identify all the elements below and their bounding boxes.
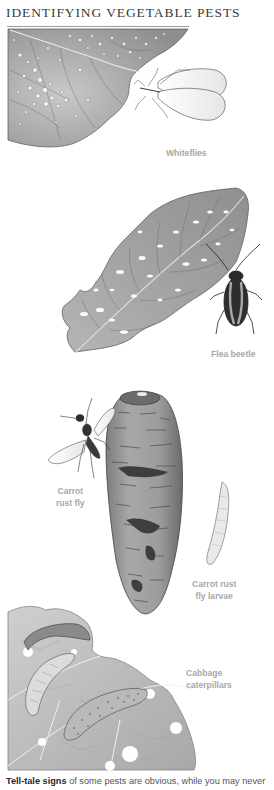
carrot-rust-fly-illustration bbox=[48, 398, 115, 478]
carrot-illustration bbox=[106, 391, 183, 614]
pest-illustrations bbox=[0, 0, 274, 790]
carrot-rust-fly-label-line2: rust fly bbox=[56, 497, 85, 509]
caption: Tell-tale signs of some pests are obviou… bbox=[6, 776, 265, 786]
cabbage-caterpillars-label-line2: caterpillars bbox=[186, 679, 232, 691]
whitefly-illustration bbox=[134, 68, 226, 120]
flea-beetle-label: Flea beetle bbox=[211, 348, 255, 360]
flea-beetle-leaf-illustration bbox=[62, 188, 248, 352]
cabbage-caterpillars-label-line1: Cabbage bbox=[186, 667, 232, 679]
carrot-rust-fly-larvae-label-line1: Carrot rust bbox=[192, 578, 236, 590]
carrot-rust-fly-label: Carrot rust fly bbox=[56, 485, 85, 509]
caption-lead: Tell-tale signs bbox=[6, 776, 67, 786]
carrot-rust-fly-label-line1: Carrot bbox=[56, 485, 85, 497]
cabbage-caterpillars-label: Cabbage caterpillars bbox=[186, 667, 232, 691]
carrot-rust-fly-larva-illustration bbox=[207, 482, 229, 564]
caption-text: of some pests are obvious, while you may… bbox=[67, 776, 266, 786]
carrot-rust-fly-larvae-label: Carrot rust fly larvae bbox=[192, 578, 236, 602]
whiteflies-label: Whiteflies bbox=[166, 147, 207, 159]
carrot-rust-fly-larvae-label-line2: fly larvae bbox=[192, 590, 236, 602]
